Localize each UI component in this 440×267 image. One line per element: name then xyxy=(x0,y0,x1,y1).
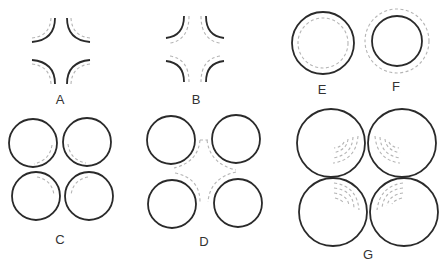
label-g: G xyxy=(363,247,373,262)
panel-c: C xyxy=(9,118,113,247)
panel-f: F xyxy=(365,9,429,94)
panel-a: A xyxy=(32,18,90,107)
panel-d: D xyxy=(147,115,262,249)
label-d: D xyxy=(199,234,208,249)
panel-g: G xyxy=(297,109,438,262)
label-e: E xyxy=(318,82,327,97)
label-b: B xyxy=(192,92,201,107)
panel-b: B xyxy=(166,16,224,107)
label-f: F xyxy=(392,79,400,94)
label-a: A xyxy=(56,92,65,107)
diagram-canvas: A B E F C xyxy=(0,0,440,267)
label-c: C xyxy=(55,232,64,247)
panel-e: E xyxy=(292,12,354,97)
